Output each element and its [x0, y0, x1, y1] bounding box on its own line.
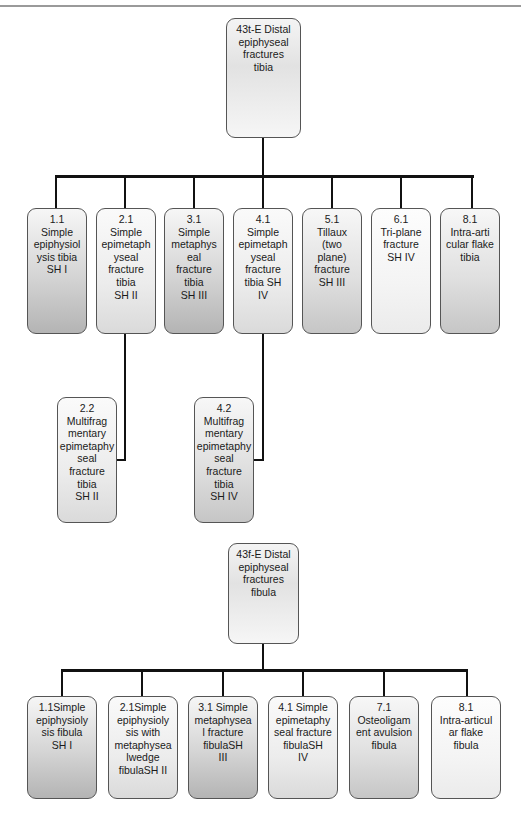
- tibia-sub-connector-4-vertical: [262, 334, 264, 461]
- tibia-node-6-1: 6.1 Tri-plane fracture SH IV: [371, 208, 431, 334]
- tibia-node-3-1: 3.1 Simple metaphys eal fracture tibia S…: [164, 208, 224, 334]
- fibula-root-node: 43f-E Distal epiphyseal fractures fibula: [228, 543, 299, 644]
- tibia-node-1-1: 1.1 Simple epiphysiol ysis tibia SH I: [27, 208, 87, 334]
- fibula-drop-2: [141, 669, 143, 697]
- tibia-sub-connector-4-horizontal: [253, 459, 264, 461]
- tibia-drop-1: [55, 175, 57, 209]
- fibula-drop-3: [222, 669, 224, 697]
- tibia-sub-connector-2-vertical: [124, 334, 126, 461]
- fibula-drop-5: [383, 669, 385, 697]
- fibula-drop-4: [302, 669, 304, 697]
- tibia-sub-connector-2-horizontal: [116, 459, 126, 461]
- fibula-drop-1: [61, 669, 63, 697]
- top-rule: [0, 5, 521, 7]
- tibia-drop-2: [124, 175, 126, 209]
- tibia-root-connector: [262, 138, 264, 176]
- tibia-drop-6: [400, 175, 402, 209]
- fibula-root-connector: [262, 644, 264, 671]
- fibula-node-7-1: 7.1 Osteoligam ent avulsion fibula: [349, 696, 419, 799]
- fibula-node-3-1: 3.1 Simple metaphysea l fracture fibulaS…: [188, 696, 258, 799]
- tibia-node-8-1: 8.1 Intra-arti cular flake tibia: [440, 208, 500, 334]
- fibula-drop-6: [466, 669, 468, 697]
- tibia-root-node: 43t-E Distal epiphyseal fractures tibia: [226, 18, 301, 138]
- fibula-node-1-1: 1.1Simple epiphysioly sis fibula SH I: [27, 696, 97, 799]
- tibia-horizontal-bus: [55, 175, 474, 178]
- tibia-node-2-1: 2.1 Simple epimetaph yseal fracture tibi…: [96, 208, 156, 334]
- tibia-drop-3: [193, 175, 195, 209]
- tibia-node-4-2: 4.2 Multifrag mentary epimetaphy seal fr…: [194, 397, 254, 523]
- tibia-node-5-1: 5.1 Tillaux (two plane) fracture SH III: [302, 208, 362, 334]
- tibia-drop-7: [471, 175, 473, 209]
- tibia-node-4-1: 4.1 Simple epimetaph yseal fracture tibi…: [233, 208, 293, 334]
- fibula-node-8-1: 8.1 Intra-articul ar flake fibula: [431, 696, 501, 799]
- fibula-node-2-1: 2.1Simple epiphysioly sis with metaphyse…: [108, 696, 178, 799]
- tibia-drop-5: [331, 175, 333, 209]
- fibula-horizontal-bus: [61, 669, 468, 672]
- fibula-node-4-1: 4.1 Simple epimetaphy seal fracture fibu…: [268, 696, 338, 799]
- tibia-drop-4: [262, 175, 264, 209]
- tibia-node-2-2: 2.2 Multifrag mentary epimetaphy seal fr…: [57, 397, 117, 523]
